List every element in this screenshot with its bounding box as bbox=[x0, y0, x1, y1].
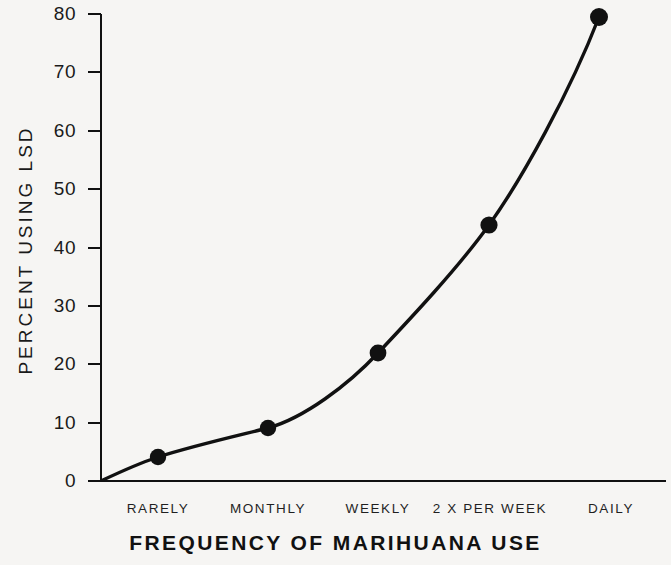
x-tick-label-daily: DAILY bbox=[556, 501, 666, 516]
y-tick-label-0: 0 bbox=[30, 470, 76, 492]
chart-plot-area bbox=[0, 0, 671, 565]
x-tick-label-rarely: RARELY bbox=[98, 501, 218, 516]
y-tick-label-80: 80 bbox=[30, 3, 76, 25]
x-axis-title: FREQUENCY OF MARIHUANA USE bbox=[0, 531, 671, 555]
y-tick-label-30: 30 bbox=[30, 295, 76, 317]
data-point-rarely bbox=[150, 449, 166, 465]
data-point-daily bbox=[590, 8, 608, 26]
x-tick-label-2xperweek: 2 X PER WEEK bbox=[418, 501, 562, 516]
data-point-2xperweek bbox=[480, 216, 497, 233]
data-markers bbox=[150, 8, 608, 465]
y-axis-ticks bbox=[88, 14, 101, 481]
chart-figure: PERCENT USING LSD 80 70 60 50 40 30 20 1… bbox=[0, 0, 671, 565]
axis-lines bbox=[101, 14, 666, 481]
y-tick-label-70: 70 bbox=[30, 61, 76, 83]
y-tick-label-10: 10 bbox=[30, 412, 76, 434]
y-tick-label-40: 40 bbox=[30, 237, 76, 259]
data-point-weekly bbox=[370, 345, 387, 362]
y-tick-label-60: 60 bbox=[30, 120, 76, 142]
y-tick-label-50: 50 bbox=[30, 178, 76, 200]
y-tick-label-20: 20 bbox=[30, 353, 76, 375]
x-tick-label-monthly: MONTHLY bbox=[205, 501, 331, 516]
data-line bbox=[103, 17, 599, 480]
data-point-monthly bbox=[260, 420, 276, 436]
x-tick-label-weekly: WEEKLY bbox=[323, 501, 433, 516]
